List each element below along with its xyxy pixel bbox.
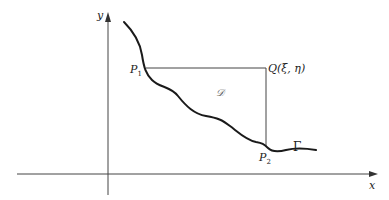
- y-axis-arrow-icon: [105, 12, 111, 22]
- point-p1-label: P1: [130, 64, 142, 78]
- x-axis-arrow-icon: [369, 171, 378, 177]
- point-q-label: Q(ξ, η): [268, 63, 305, 74]
- diagram-canvas: [0, 0, 389, 200]
- figure: y x P1 Q(ξ, η) 𝒟 P2 Γ: [0, 0, 389, 200]
- y-axis-label: y: [97, 10, 103, 21]
- region-d-label: 𝒟: [216, 88, 224, 98]
- point-p2-subscript: 2: [266, 158, 270, 166]
- point-p1-subscript: 1: [137, 70, 141, 78]
- point-p2-label: P2: [259, 152, 271, 166]
- curve-gamma-label: Γ: [293, 141, 301, 153]
- x-axis-label: x: [369, 180, 375, 191]
